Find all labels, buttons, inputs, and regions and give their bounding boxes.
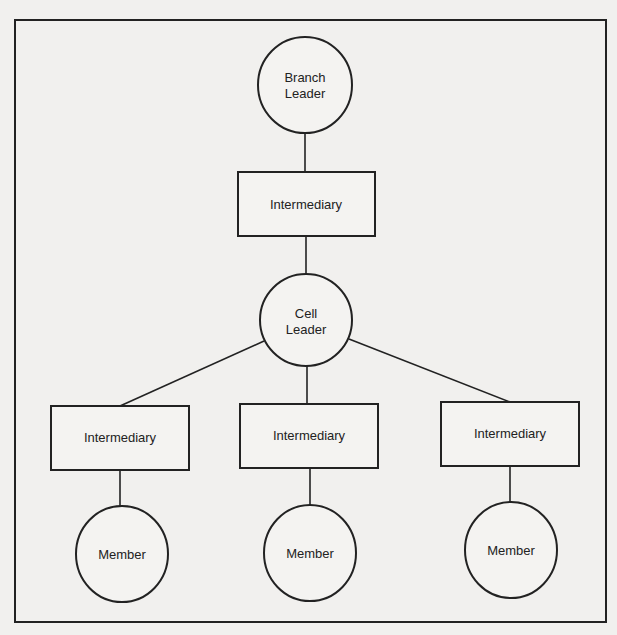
branch-leader-label-line1: Branch [284,70,325,85]
node-top-intermediary: Intermediary [238,172,375,236]
cell-leader-label-line1: Cell [295,306,318,321]
branch-leader-label-line2: Leader [285,86,326,101]
left-intermediary-label: Intermediary [84,430,157,445]
left-member-label: Member [98,547,146,562]
node-cell-leader: Cell Leader [260,274,352,366]
top-intermediary-label: Intermediary [270,197,343,212]
middle-member-label: Member [286,546,334,561]
cell-leader-label-line2: Leader [286,322,327,337]
node-middle-intermediary: Intermediary [240,404,378,468]
node-right-intermediary: Intermediary [441,402,579,466]
node-left-member: Member [76,506,168,602]
edge-cell-to-left-intermediary [120,341,264,406]
node-right-member: Member [465,502,557,598]
node-branch-leader: Branch Leader [258,37,352,133]
node-left-intermediary: Intermediary [51,406,189,470]
right-intermediary-label: Intermediary [474,426,547,441]
right-member-label: Member [487,543,535,558]
middle-intermediary-label: Intermediary [273,428,346,443]
edge-cell-to-right-intermediary [349,339,510,402]
hierarchy-diagram: Branch Leader Intermediary Cell Leader I… [0,0,617,635]
node-middle-member: Member [264,505,356,601]
